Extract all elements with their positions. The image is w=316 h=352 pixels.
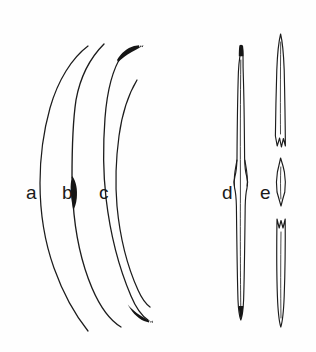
specimen-label-b: b — [62, 182, 73, 203]
plate-drawing: a b c d e — [0, 0, 316, 352]
specimen-plate: a b c d e — [0, 0, 316, 352]
plate-background — [0, 0, 316, 352]
specimen-label-c: c — [99, 182, 109, 203]
specimen-label-d: d — [222, 182, 233, 203]
specimen-e — [275, 34, 285, 327]
specimen-d-upper-dark-tip — [239, 45, 244, 56]
specimen-label-a: a — [26, 182, 37, 203]
specimen-label-e: e — [260, 182, 271, 203]
